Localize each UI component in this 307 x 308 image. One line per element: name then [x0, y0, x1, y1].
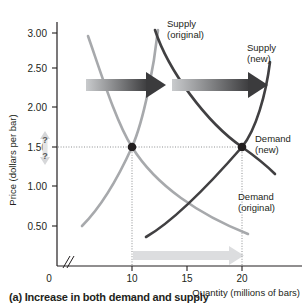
- x-tick-label-1: 15: [181, 273, 193, 284]
- supply-new-label-line2: (new): [247, 53, 271, 64]
- label-supply-new: Supply (new): [247, 42, 276, 64]
- demand-new-label-line2: (new): [255, 144, 279, 155]
- y-tick-label-3: 2.00: [28, 102, 48, 113]
- x-tick-label-2: 20: [236, 273, 248, 284]
- y-tick-label-5: 3.00: [28, 28, 48, 39]
- label-demand-original: Demand (original): [238, 191, 275, 213]
- supply-new-label-line1: Supply: [247, 42, 276, 53]
- y-axis-title: Price (dollars per bar): [7, 114, 18, 205]
- y-tick-label-1: 1.00: [28, 181, 48, 192]
- figure-panel: 0.50 1.00 1.50 2.00 2.50 3.00 10 15 20 0…: [0, 0, 307, 308]
- equilibrium-dot-new: [238, 143, 247, 152]
- supply-original-label-line1: Supply: [167, 18, 196, 29]
- origin-label: 0: [46, 273, 52, 284]
- label-demand-new: Demand (new): [255, 133, 291, 155]
- y-tick-label-0: 0.50: [28, 221, 48, 232]
- supply-shift-arrow: [86, 72, 166, 98]
- x-axis-ticks: [132, 266, 242, 271]
- label-supply-original: Supply (original): [167, 18, 204, 40]
- price-question-mark-bottom: ?: [42, 151, 48, 161]
- equilibrium-guides: [58, 147, 242, 266]
- y-axis-ticks: [52, 33, 57, 226]
- equilibrium-dot-original: [128, 143, 137, 152]
- y-axis-tick-labels: 0.50 1.00 1.50 2.00 2.50 3.00: [28, 28, 48, 232]
- curve-supply-original: [82, 30, 158, 226]
- figure-caption: (a) Increase in both demand and supply: [9, 291, 209, 303]
- quantity-increase-arrow: [133, 246, 244, 265]
- supply-original-label-line2: (original): [167, 29, 204, 40]
- demand-shift-arrow: [172, 72, 268, 98]
- price-question-mark-top: ?: [42, 135, 48, 145]
- curve-demand-original: [88, 36, 248, 234]
- demand-new-label-line1: Demand: [255, 133, 291, 144]
- demand-original-label-line1: Demand: [238, 191, 274, 202]
- demand-original-label-line2: (original): [238, 202, 275, 213]
- x-axis-tick-labels: 10 15 20 0: [46, 273, 248, 284]
- y-tick-label-4: 2.50: [28, 63, 48, 74]
- supply-demand-chart: 0.50 1.00 1.50 2.00 2.50 3.00 10 15 20 0…: [0, 0, 307, 308]
- x-tick-label-0: 10: [126, 273, 138, 284]
